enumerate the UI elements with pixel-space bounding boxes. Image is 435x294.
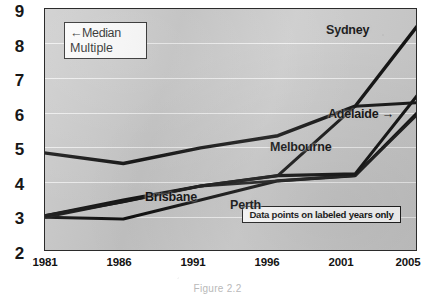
data-points-note: Data points on labeled years only <box>242 206 401 223</box>
x-tick-label: 2005 <box>385 257 431 269</box>
x-tick-label: 1986 <box>96 257 142 269</box>
y-tick-label: 5 <box>2 141 24 158</box>
series-label-sydney: Sydney <box>326 24 369 37</box>
series-label-perth: Perth <box>230 199 261 212</box>
median-multiple-callout: ←Median Multiple <box>64 22 147 59</box>
y-tick-label: 3 <box>2 210 24 227</box>
figure-caption: Figure 2.2 <box>0 284 435 294</box>
plot-area: ←Median Multiple Data points on labeled … <box>44 8 417 251</box>
y-tick-label: 7 <box>2 72 24 89</box>
y-tick-label: 6 <box>2 107 24 124</box>
x-tick-label: 1981 <box>22 257 68 269</box>
series-label-adelaide: Adelaide → <box>328 108 394 121</box>
y-tick-label: 4 <box>2 176 24 193</box>
y-tick-label: 9 <box>2 3 24 20</box>
median-multiple-line2: Multiple <box>70 41 141 56</box>
x-tick-label: 2001 <box>318 257 364 269</box>
median-multiple-line1: ←Median <box>70 26 141 41</box>
series-label-brisbane: Brisbane <box>145 191 197 204</box>
series-label-melbourne: Melbourne <box>270 141 331 154</box>
y-tick-label: 8 <box>2 38 24 55</box>
x-tick-label: 1996 <box>244 257 290 269</box>
x-tick-label: 1991 <box>170 257 216 269</box>
y-tick-label: 2 <box>2 245 24 262</box>
